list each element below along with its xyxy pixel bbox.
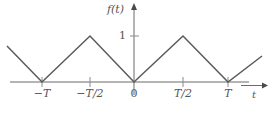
y-axis-label: f(t) [107,4,124,15]
x-tick-label-t-half: T/2 [166,88,200,99]
x-tick-label-neg-t-half: −T/2 [71,88,109,99]
x-axis-arrow-icon [262,83,268,89]
x-tick-label-neg-t: −T [28,88,56,99]
x-tick-label-zero: 0 [124,88,144,99]
triangular-wave-figure: f(t) 1 −T −T/2 0 T/2 T t [0,0,269,113]
x-tick-label-t: T [216,88,240,99]
y-axis-arrow-icon [131,3,137,10]
x-axis-label: t [252,90,256,100]
y-tick-label-1: 1 [119,30,126,41]
